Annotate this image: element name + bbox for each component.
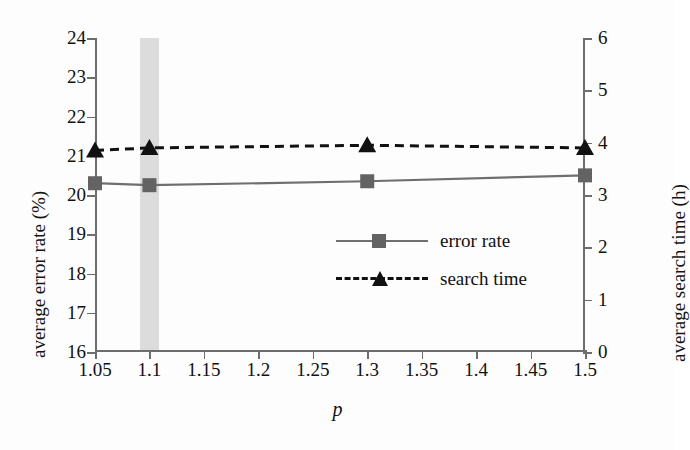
series-line-error-rate <box>95 175 585 185</box>
legend-label-search-time: search time <box>440 268 527 290</box>
y-tick-label-right: 1 <box>598 290 642 309</box>
square-marker <box>142 178 156 192</box>
legend-item-error-rate: error rate <box>336 222 551 260</box>
square-marker <box>88 176 102 190</box>
plot-area <box>95 38 585 352</box>
chart-legend: error rate search time <box>336 222 551 298</box>
x-tick-label: 1.3 <box>339 360 395 379</box>
y-tick-label-left: 22 <box>42 107 86 126</box>
y-tick-label-left: 18 <box>42 264 86 283</box>
square-marker <box>578 168 592 182</box>
y-tick-label-left: 20 <box>42 185 86 204</box>
legend-key-error-rate <box>336 231 428 251</box>
y-tick-left <box>87 274 95 276</box>
series-line-search-time <box>95 145 585 150</box>
y-axis-title-right: average search time (h) <box>668 184 690 362</box>
x-tick-label: 1.35 <box>394 360 450 379</box>
y-tick-label-right: 5 <box>598 80 642 99</box>
legend-key-search-time <box>336 269 428 289</box>
y-tick-label-right: 3 <box>598 185 642 204</box>
data-series-layer <box>95 38 585 352</box>
y-tick-label-right: 0 <box>598 342 642 361</box>
y-tick-label-left: 21 <box>42 146 86 165</box>
y-tick-left <box>87 352 95 354</box>
y-tick-label-left: 24 <box>42 28 86 47</box>
y-tick-left <box>87 38 95 40</box>
x-tick-label: 1.4 <box>448 360 504 379</box>
x-tick-label: 1.25 <box>285 360 341 379</box>
y-tick-left <box>87 313 95 315</box>
y-tick-left <box>87 234 95 236</box>
y-tick-left <box>87 195 95 197</box>
x-tick-label: 1.05 <box>67 360 123 379</box>
y-tick-right <box>583 352 592 354</box>
x-axis-title: p <box>0 398 675 421</box>
y-tick-label-right: 2 <box>598 237 642 256</box>
y-tick-label-left: 17 <box>42 303 86 322</box>
x-tick-label: 1.2 <box>230 360 286 379</box>
y-tick-label-right: 6 <box>598 28 642 47</box>
legend-label-error-rate: error rate <box>440 230 510 252</box>
y-tick-label-left: 23 <box>42 67 86 86</box>
x-tick-label: 1.45 <box>503 360 559 379</box>
series-markers-error-rate <box>88 168 592 192</box>
y-tick-left <box>87 117 95 119</box>
legend-item-search-time: search time <box>336 260 551 298</box>
triangle-marker-icon <box>372 271 388 286</box>
y-tick-label-right: 4 <box>598 133 642 152</box>
x-tick-label: 1.1 <box>121 360 177 379</box>
square-marker <box>360 174 374 188</box>
y-tick-left <box>87 77 95 79</box>
square-marker-icon <box>372 234 386 248</box>
x-tick-label: 1.5 <box>557 360 613 379</box>
x-tick-label: 1.15 <box>176 360 232 379</box>
y-tick-label-left: 19 <box>42 224 86 243</box>
